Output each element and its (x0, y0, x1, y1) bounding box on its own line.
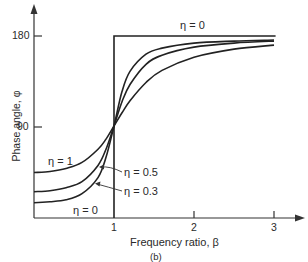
curve-0-3 (34, 40, 274, 203)
annotation-eta0-top: η = 0 (180, 19, 205, 31)
arrow-eta03 (97, 184, 122, 191)
annotation-eta0-bottom: η = 0 (73, 204, 98, 216)
y-axis-arrow-icon (31, 4, 38, 14)
annotation-eta05: η = 0.5 (124, 166, 158, 178)
arrow-eta05 (101, 167, 122, 172)
annotation-eta1: η = 1 (48, 155, 73, 167)
phase-angle-chart (0, 0, 308, 262)
y-axis-label: Phase angle, φ (10, 76, 22, 176)
arrowhead-eta03-icon (95, 182, 101, 187)
x-tick-label-2: 2 (191, 221, 197, 233)
y-tick-label-180: 180 (12, 29, 30, 41)
x-axis-label: Frequency ratio, β (130, 236, 219, 248)
x-tick-label-1: 1 (111, 221, 117, 233)
x-axis-arrow-icon (295, 215, 305, 222)
curve-1 (34, 45, 274, 172)
figure-caption: (b) (150, 251, 162, 262)
annotation-eta03: η = 0.3 (124, 185, 158, 197)
x-tick-label-3: 3 (271, 221, 277, 233)
